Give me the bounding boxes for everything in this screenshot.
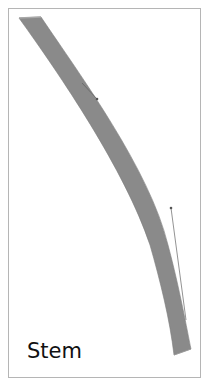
stem-label: Stem (27, 339, 82, 363)
stem-illustration (0, 0, 209, 386)
stem-shape (19, 17, 191, 355)
bezier-anchor-lower (170, 207, 173, 210)
bezier-anchor-upper (96, 98, 99, 101)
stem-top-edge (19, 17, 41, 18)
